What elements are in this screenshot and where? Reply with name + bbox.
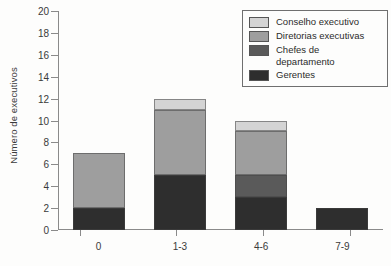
x-tick [80, 230, 81, 236]
legend-label: Diretorias executivas [276, 30, 364, 42]
y-tick [51, 121, 58, 122]
bar-segment [154, 99, 206, 110]
y-tick-label: 8 [43, 137, 49, 148]
legend-item: Conselho executivo [249, 16, 380, 28]
x-tick-label: 0 [96, 241, 102, 252]
y-tick [51, 186, 58, 187]
bar-group [235, 121, 287, 231]
bar-segment [73, 208, 125, 230]
bar-group [316, 208, 368, 230]
bar-segment [235, 121, 287, 132]
y-tick [51, 55, 58, 56]
x-tick-label: 1-3 [173, 241, 187, 252]
legend-swatch-icon [249, 70, 269, 81]
bar-segment [235, 131, 287, 175]
legend-label: Gerentes [276, 69, 315, 81]
y-tick-label: 20 [38, 6, 49, 17]
y-tick-label: 18 [38, 27, 49, 38]
legend-item: Diretorias executivas [249, 30, 380, 42]
x-tick [263, 230, 264, 236]
y-tick-label: 0 [43, 225, 49, 236]
legend-swatch-icon [249, 31, 269, 42]
legend-swatch-icon [249, 45, 269, 56]
y-tick [51, 33, 58, 34]
legend-label: Conselho executivo [276, 16, 359, 28]
y-tick [51, 77, 58, 78]
bar-segment [235, 175, 287, 197]
y-tick [51, 142, 58, 143]
y-tick [51, 230, 58, 231]
legend: Conselho executivoDiretorias executivasC… [242, 10, 388, 87]
y-axis-title: Número de executivos [8, 41, 19, 191]
y-tick [51, 99, 58, 100]
x-tick [350, 230, 351, 236]
bar-segment [316, 208, 368, 230]
y-tick [51, 164, 58, 165]
x-tick-label: 4-6 [254, 241, 268, 252]
y-tick-label: 2 [43, 203, 49, 214]
bar-segment [154, 175, 206, 230]
y-tick-label: 16 [38, 49, 49, 60]
y-tick-label: 12 [38, 93, 49, 104]
y-tick [51, 11, 58, 12]
bar-segment [73, 153, 125, 208]
bar-group [154, 99, 206, 230]
stacked-bar-chart: Número de executivos 02468101214161820 0… [0, 0, 391, 266]
y-tick-label: 4 [43, 181, 49, 192]
bar-segment [154, 110, 206, 176]
y-tick [51, 208, 58, 209]
y-tick-label: 14 [38, 71, 49, 82]
x-tick [176, 230, 177, 236]
bar-group [73, 153, 125, 230]
y-tick-label: 10 [38, 115, 49, 126]
legend-swatch-icon [249, 17, 269, 28]
y-tick-label: 6 [43, 159, 49, 170]
legend-label: Chefes de departamento [276, 44, 380, 67]
legend-item: Chefes de departamento [249, 44, 380, 67]
x-tick-label: 7-9 [335, 241, 349, 252]
legend-item: Gerentes [249, 69, 380, 81]
bar-segment [235, 197, 287, 230]
y-axis-line [58, 11, 59, 230]
